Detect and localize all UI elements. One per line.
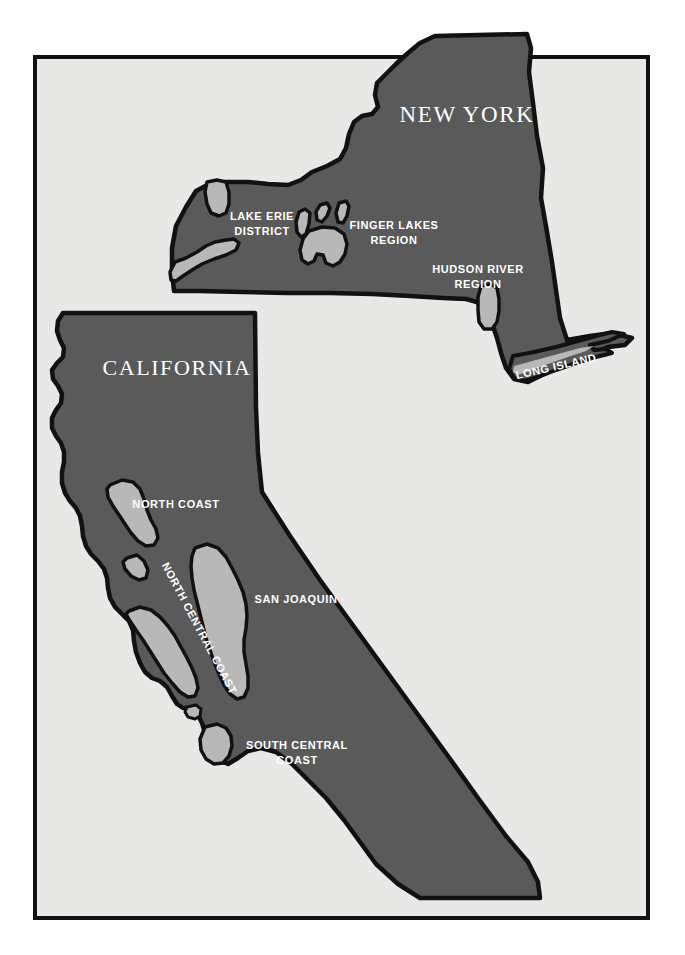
- south-central-coast-region-marker: [185, 705, 201, 719]
- san-joaquin-label: SAN JOAQUIN: [255, 593, 338, 605]
- california-title: CALIFORNIA: [102, 355, 251, 380]
- north-coast-label: NORTH COAST: [132, 498, 219, 510]
- hudson-river-region-label-line1: HUDSON RIVER: [432, 263, 524, 275]
- finger-lakes-region-area[interactable]: [300, 227, 347, 266]
- south-central-coast-label-line1: SOUTH CENTRAL: [246, 739, 348, 751]
- south-central-coast-region-area[interactable]: [200, 724, 232, 764]
- finger-lakes-region-label-line1: FINGER LAKES: [349, 219, 438, 231]
- wine-region-map: NEW YORK LAKE ERIE DISTRICT FINGER LAKES…: [0, 0, 685, 955]
- finger-lakes-region-label-line2: REGION: [371, 234, 418, 246]
- hudson-river-region-label-line2: REGION: [455, 278, 502, 290]
- lake-erie-district-label-line2: DISTRICT: [234, 225, 290, 237]
- lake-erie-district-region-north[interactable]: [205, 180, 229, 216]
- new-york-title: NEW YORK: [400, 102, 535, 127]
- lake-erie-district-label-line1: LAKE ERIE: [230, 210, 294, 222]
- map-page: NEW YORK LAKE ERIE DISTRICT FINGER LAKES…: [0, 0, 685, 955]
- hudson-river-region-area[interactable]: [478, 284, 499, 329]
- south-central-coast-label-line2: COAST: [276, 754, 318, 766]
